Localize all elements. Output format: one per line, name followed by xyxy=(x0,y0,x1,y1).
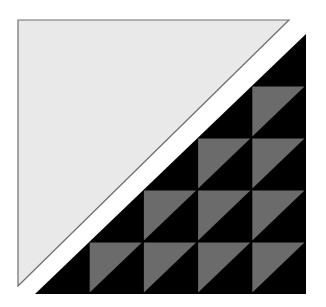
quilt-block-graphic xyxy=(0,0,326,307)
